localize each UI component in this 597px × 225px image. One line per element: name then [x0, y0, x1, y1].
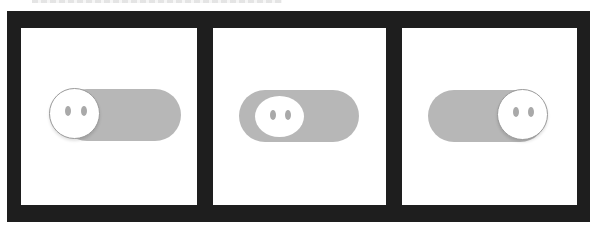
- right-eye-icon: [285, 110, 291, 120]
- right-eye-icon: [81, 106, 87, 116]
- left-eye-icon: [513, 107, 519, 117]
- toggle-knob-face[interactable]: [255, 96, 304, 137]
- left-eye-icon: [270, 110, 276, 120]
- toggle-panel-transition: [213, 28, 386, 205]
- toggle-knob-face[interactable]: [49, 88, 100, 139]
- toggle-panel-on: [402, 28, 577, 205]
- toggle-knob-face[interactable]: [497, 89, 548, 140]
- left-eye-icon: [65, 106, 71, 116]
- toggle-panel-off: [21, 28, 197, 205]
- cropped-caption-text: [32, 0, 282, 3]
- right-eye-icon: [528, 107, 534, 117]
- figure-frame: [7, 11, 590, 222]
